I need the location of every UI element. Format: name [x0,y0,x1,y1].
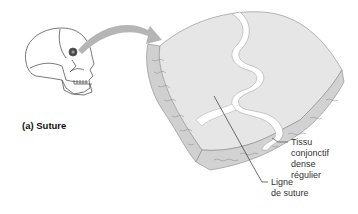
label-tissue-line1: Tissu [291,137,329,148]
label-suture-line: Ligne de suture [271,177,309,199]
label-tissue-line3: dense [291,159,329,170]
figure-caption: (a) Suture [22,120,66,131]
label-tissue: Tissu conjonctif dense régulier [291,137,329,181]
skull-icon [25,28,94,95]
suture-diagram: (a) Suture Tissu conjonctif dense réguli… [0,0,358,214]
label-suture-line2: de suture [271,188,309,199]
label-tissue-line2: conjonctif [291,148,329,159]
label-suture-line1: Ligne [271,177,309,188]
